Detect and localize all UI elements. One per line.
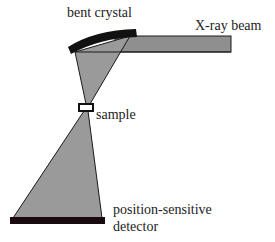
sample-box bbox=[79, 104, 93, 111]
label-detector-line1: position-sensitive bbox=[113, 202, 212, 217]
position-sensitive-detector bbox=[10, 217, 105, 224]
label-sample: sample bbox=[96, 107, 136, 122]
diagram-canvas: bent crystal X-ray beam sample position-… bbox=[0, 0, 275, 242]
label-detector-line2: detector bbox=[113, 219, 158, 234]
label-xray-beam: X-ray beam bbox=[195, 18, 261, 33]
label-bent-crystal: bent crystal bbox=[67, 5, 132, 20]
lower-cone bbox=[13, 111, 102, 218]
xray-beam bbox=[115, 36, 231, 52]
